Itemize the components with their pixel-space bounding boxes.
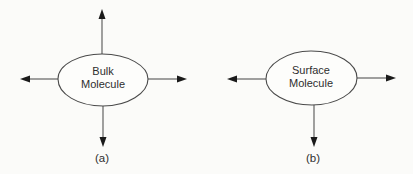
arrow-up-icon [99,9,106,54]
surface-molecule-label-line2: Molecule [266,77,356,90]
surface-molecule-label: Surface Molecule [266,64,356,90]
arrow-down-icon [100,106,107,147]
bulk-molecule-label: Bulk Molecule [58,65,148,91]
bulk-molecule-label-line1: Bulk [58,65,148,78]
panel-a-caption: (a) [87,152,117,164]
panel-b-caption: (b) [298,152,328,164]
arrow-left-icon [20,76,58,83]
arrow-right-icon [357,75,396,82]
arrow-left-icon [227,76,266,83]
arrow-down-icon [311,105,318,147]
surface-molecule-label-line1: Surface [266,64,356,77]
arrow-right-icon [148,76,187,83]
bulk-molecule-label-line2: Molecule [58,78,148,91]
